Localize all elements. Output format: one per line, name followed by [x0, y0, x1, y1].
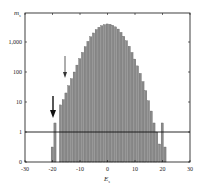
histogram-bar: [106, 24, 108, 162]
histogram-bar: [87, 41, 89, 162]
histogram-bar: [123, 36, 125, 162]
histogram-bar: [65, 93, 67, 162]
y-axis-label: ms: [14, 9, 21, 18]
x-tick-label: 20: [160, 166, 166, 172]
x-tick-label: -20: [49, 166, 57, 172]
histogram-bar: [112, 25, 114, 162]
histogram-bar: [153, 123, 155, 162]
histogram-bar: [142, 82, 144, 162]
y-tick-label: 10: [16, 99, 22, 105]
histogram-bar: [90, 37, 92, 162]
arrow-bold: [50, 96, 56, 118]
y-tick-label: 1,000: [9, 39, 23, 45]
histogram-bar: [81, 52, 83, 162]
histogram-bar: [161, 123, 163, 162]
x-axis-label: Es: [103, 175, 110, 184]
histogram-bar: [134, 59, 136, 162]
histogram-bar: [131, 52, 133, 162]
histogram-bar: [95, 30, 97, 162]
histogram-bar: [147, 101, 149, 162]
histogram-bar: [73, 72, 75, 162]
histogram-bar: [76, 65, 78, 162]
histogram-bar: [79, 59, 81, 162]
histogram-bar: [156, 132, 158, 162]
histogram-bar: [150, 111, 152, 162]
x-tick-label: 30: [187, 166, 193, 172]
y-tick-label: 100: [13, 69, 22, 75]
histogram-bar: [117, 29, 119, 162]
histogram-bar: [109, 24, 111, 162]
histogram-bar: [120, 32, 122, 162]
histogram-bar: [125, 41, 127, 162]
histogram-bar: [114, 27, 116, 162]
histogram-bar: [164, 147, 166, 162]
histogram-bar: [51, 147, 53, 162]
x-tick-label: 0: [106, 166, 109, 172]
histogram-bar: [101, 26, 103, 162]
y-tick-label: 0: [19, 159, 22, 165]
histogram-bar: [68, 86, 70, 162]
histogram-bar: [98, 27, 100, 162]
histogram-bar: [54, 123, 56, 162]
histogram-bar: [145, 91, 147, 162]
x-tick-label: -10: [76, 166, 84, 172]
y-tick-label: 1: [19, 129, 22, 135]
x-tick-label: 10: [132, 166, 138, 172]
histogram-bar: [103, 25, 105, 162]
histogram-bar: [158, 144, 160, 162]
histogram-chart: 01101001,000 -30-20-100102030 ms Es: [0, 0, 199, 186]
arrow-thin: [63, 56, 67, 78]
histogram-bar: [59, 105, 61, 162]
histogram-bar: [62, 100, 64, 162]
histogram-bar: [84, 47, 86, 162]
x-tick-label: -30: [21, 166, 29, 172]
histogram-bars: [51, 24, 166, 162]
histogram-bar: [70, 79, 72, 162]
histogram-bar: [92, 33, 94, 162]
histogram-bar: [139, 73, 141, 162]
histogram-bar: [128, 46, 130, 162]
histogram-bar: [136, 66, 138, 162]
